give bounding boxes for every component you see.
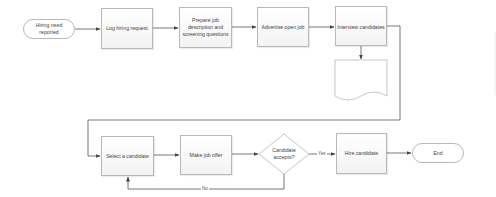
node-prepare-job-description[interactable]: Prepare job description and screening qu… bbox=[179, 7, 232, 48]
node-hire-candidate[interactable]: Hire candidate bbox=[336, 133, 387, 174]
node-label: Prepare job description and screening qu… bbox=[182, 17, 230, 38]
node-label: Hire candidate bbox=[345, 150, 378, 157]
node-label: Advertise open job bbox=[262, 24, 305, 31]
node-document[interactable] bbox=[335, 60, 387, 98]
node-label: End bbox=[433, 150, 442, 157]
node-label: Select a candidate bbox=[106, 153, 149, 160]
node-label: Interview candidates bbox=[337, 24, 384, 31]
node-log-hiring-request[interactable]: Log hiring request bbox=[101, 8, 153, 49]
node-label: Hiring need reported bbox=[32, 22, 66, 36]
node-label: Candidate accepts? bbox=[269, 147, 299, 161]
node-end[interactable]: End bbox=[412, 143, 464, 163]
node-candidate-accepts[interactable]: Candidate accepts? bbox=[264, 144, 304, 164]
node-interview-candidates[interactable]: Interview candidates bbox=[335, 6, 387, 46]
node-advertise-open-job[interactable]: Advertise open job bbox=[257, 7, 309, 47]
node-label: Make job offer bbox=[190, 152, 223, 159]
node-hiring-need-reported[interactable]: Hiring need reported bbox=[23, 19, 75, 39]
node-label: Log hiring request bbox=[106, 25, 148, 32]
edge-label-yes: Yes bbox=[317, 151, 327, 156]
node-make-job-offer[interactable]: Make job offer bbox=[180, 135, 232, 175]
edge-label-no: No bbox=[201, 186, 209, 191]
node-select-a-candidate[interactable]: Select a candidate bbox=[101, 136, 154, 176]
